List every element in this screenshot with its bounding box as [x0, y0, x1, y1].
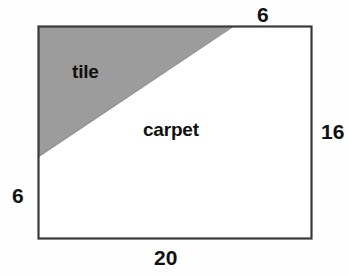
dimension-label-left: 6 — [12, 185, 24, 206]
geometry-diagram: tile carpet 6 16 6 20 — [0, 0, 349, 276]
carpet-region-label: carpet — [143, 120, 199, 139]
dimension-label-bottom: 20 — [154, 247, 177, 268]
dimension-label-right: 16 — [321, 121, 344, 142]
dimension-label-top: 6 — [257, 4, 269, 25]
tile-region-label: tile — [72, 62, 99, 81]
